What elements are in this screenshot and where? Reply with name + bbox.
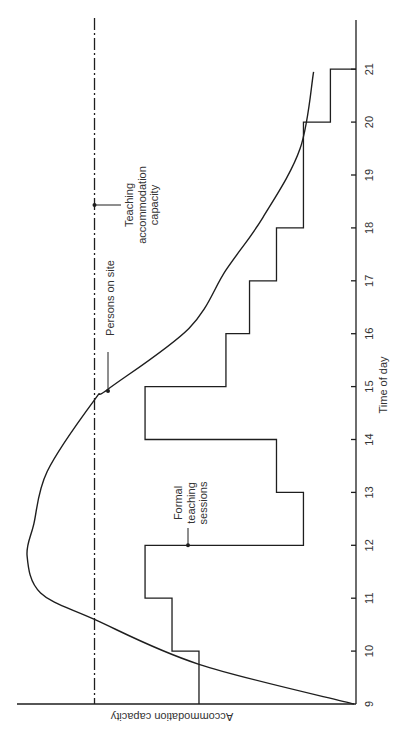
tick-label: 11 — [363, 592, 375, 603]
tick-label: 15 — [363, 380, 375, 392]
annotation-text: Teachingaccommodationcapacity — [123, 166, 160, 244]
tick-label: 14 — [363, 433, 375, 445]
capacity-annotation: Teachingaccommodationcapacity — [93, 166, 160, 244]
persons-on-site-curve — [27, 72, 354, 704]
tick-label: 17 — [363, 275, 375, 287]
annotation-text: Persons on site — [104, 260, 116, 336]
tick-label: 13 — [363, 486, 375, 498]
persons-annotation: Persons on site — [104, 260, 116, 393]
tick-label: 12 — [363, 539, 375, 551]
tick-label: 19 — [363, 169, 375, 181]
tick-label: 16 — [363, 328, 375, 340]
sessions-annotation: Formalteachingsessions — [172, 481, 209, 547]
tick-label: 9 — [363, 701, 375, 707]
chart: 9101112131415161718192021 Teachingaccomm… — [0, 0, 394, 742]
tick-label: 20 — [363, 116, 375, 128]
teaching-sessions-step-line — [145, 69, 356, 704]
annotations: TeachingaccommodationcapacityPersons on … — [93, 166, 209, 547]
x-axis-title: Time of day — [377, 356, 389, 414]
tick-label: 21 — [363, 63, 375, 75]
tick-label: 18 — [363, 222, 375, 234]
x-axis-ticks: 9101112131415161718192021 — [351, 63, 375, 707]
y-axis-title: Accommodation capacity — [110, 711, 233, 723]
annotation-text: Formalteachingsessions — [172, 481, 209, 524]
tick-label: 10 — [363, 645, 375, 657]
